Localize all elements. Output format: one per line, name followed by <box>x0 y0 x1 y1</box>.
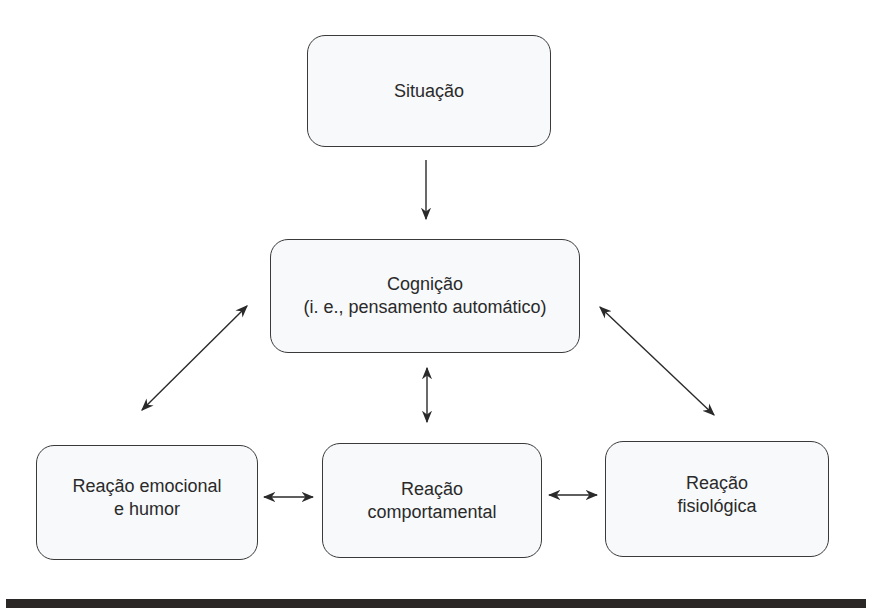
footer-bar <box>6 599 866 608</box>
node-reacao-emocional: Reação emocional e humor <box>36 445 258 560</box>
node-label: Reação <box>677 472 756 495</box>
node-label: Situação <box>394 80 464 103</box>
node-reacao-comportamental: Reação comportamental <box>322 443 542 558</box>
node-cognicao: Cognição (i. e., pensamento automático) <box>270 239 580 353</box>
node-label-line2: fisiológica <box>677 495 756 518</box>
arrow-cognicao-emocional <box>142 306 247 410</box>
node-label: Reação <box>367 478 496 501</box>
node-label: Cognição <box>303 273 546 296</box>
node-sublabel: (i. e., pensamento automático) <box>303 296 546 319</box>
node-label-line2: comportamental <box>367 501 496 524</box>
arrow-cognicao-fisiologica <box>600 307 714 415</box>
node-reacao-fisiologica: Reação fisiológica <box>605 441 829 557</box>
node-label-line2: e humor <box>72 498 221 521</box>
node-situacao: Situação <box>307 35 551 147</box>
node-label: Reação emocional <box>72 475 221 498</box>
